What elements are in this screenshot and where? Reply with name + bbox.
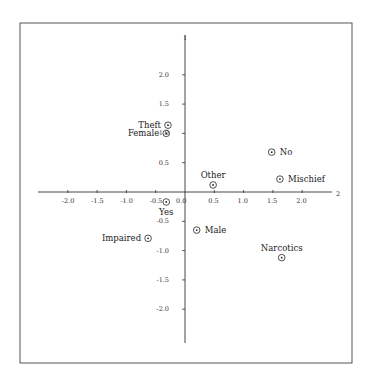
- y-axis-title: 1: [183, 34, 187, 42]
- correspondence-plot: 21-2.0-1.5-1.0-0.50.00.51.01.52.02.01.51…: [0, 0, 369, 386]
- marker-center-dot: [212, 184, 214, 186]
- point-label: No: [280, 147, 293, 157]
- data-point-narcotics: Narcotics: [261, 243, 303, 261]
- point-label: Male: [205, 225, 227, 235]
- x-tick-label: -1.0: [120, 197, 133, 205]
- y-tick-label: -0.5: [156, 217, 169, 225]
- x-axis-title: 2: [336, 190, 340, 198]
- x-tick-label: -2.0: [62, 197, 75, 205]
- marker-center-dot: [165, 201, 167, 203]
- marker-center-dot: [279, 178, 281, 180]
- y-tick-label: -2.0: [156, 305, 169, 313]
- y-tick-label: 2.0: [159, 71, 169, 79]
- y-tick-label: -1.0: [156, 247, 169, 255]
- data-point-no: No: [268, 147, 292, 157]
- x-tick-label: 0.5: [208, 197, 218, 205]
- x-tick-label: 1.5: [267, 197, 277, 205]
- x-tick-label: -1.5: [91, 197, 104, 205]
- y-tick-label: 1.5: [159, 100, 169, 108]
- data-point-other: Other: [201, 170, 227, 188]
- y-tick-label: 0.5: [159, 159, 169, 167]
- x-tick-label: -0.5: [150, 197, 163, 205]
- data-point-male: Male: [193, 225, 226, 235]
- marker-center-dot: [281, 257, 283, 259]
- marker-center-dot: [167, 124, 169, 126]
- x-tick-label: 1.0: [238, 197, 248, 205]
- point-label: Yes: [158, 207, 173, 217]
- point-label: Female: [128, 128, 159, 138]
- marker-center-dot: [271, 151, 273, 153]
- y-tick-label: -1.5: [156, 276, 169, 284]
- point-label: Mischief: [288, 174, 326, 184]
- data-point-mischief: Mischief: [277, 174, 326, 184]
- point-label: Narcotics: [261, 243, 303, 253]
- marker-center-dot: [165, 133, 167, 135]
- point-label: Impaired: [102, 233, 142, 243]
- x-tick-label: 2.0: [296, 197, 306, 205]
- data-point-impaired: Impaired: [102, 233, 151, 243]
- x-tick-label: 0.0: [176, 197, 186, 205]
- marker-center-dot: [147, 237, 149, 239]
- axes: 21-2.0-1.5-1.0-0.50.00.51.01.52.02.01.51…: [38, 34, 340, 343]
- point-label: Other: [201, 170, 227, 180]
- data-points: TheftFemaleNoMischiefOtherYesMaleImpaire…: [102, 120, 326, 261]
- marker-center-dot: [196, 229, 198, 231]
